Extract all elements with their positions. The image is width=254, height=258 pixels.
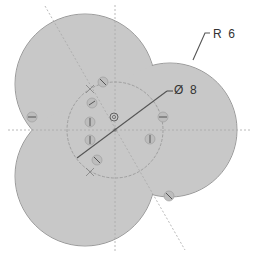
diameter-dimension-label: Ø 8 bbox=[174, 83, 197, 97]
screw-marker-icon bbox=[85, 135, 95, 145]
radius-leader bbox=[193, 33, 210, 60]
screw-marker-icon bbox=[27, 112, 37, 122]
screw-marker-icon bbox=[87, 98, 97, 108]
screw-marker-icon bbox=[85, 117, 95, 127]
screw-marker-icon bbox=[98, 77, 108, 87]
screw-marker-icon bbox=[145, 134, 155, 144]
screw-marker-icon bbox=[164, 191, 174, 201]
screw-marker-icon bbox=[92, 155, 102, 165]
radius-dimension-label: R 6 bbox=[213, 27, 235, 41]
screw-marker-icon bbox=[158, 112, 168, 122]
